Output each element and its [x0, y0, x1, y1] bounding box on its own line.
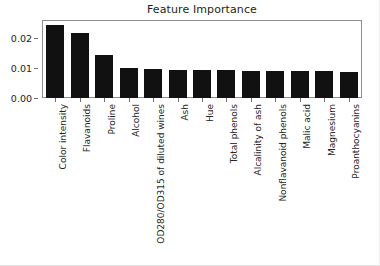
- x-tick-label: Total phenols: [230, 104, 239, 163]
- bar: [193, 70, 211, 98]
- bar: [217, 70, 235, 98]
- x-tick-mark: [251, 98, 252, 102]
- x-tick-label: OD280/OD315 of diluted wines: [157, 104, 166, 244]
- x-tick-mark: [300, 98, 301, 102]
- chart-title: Feature Importance: [42, 3, 362, 16]
- x-tick-mark: [202, 98, 203, 102]
- x-tick-mark: [104, 98, 105, 102]
- x-tick-label: Malic acid: [303, 104, 312, 149]
- x-tick-label: Nonflavanoid phenols: [279, 104, 288, 202]
- y-axis: 0.000.010.02: [0, 20, 38, 98]
- y-tick-label: 0.01: [11, 63, 32, 74]
- x-tick-mark: [324, 98, 325, 102]
- bar: [120, 68, 138, 98]
- x-tick-label: Magnesium: [328, 104, 337, 156]
- x-axis-ticks: [43, 98, 361, 102]
- x-tick-mark: [80, 98, 81, 102]
- bar: [46, 25, 64, 98]
- x-tick-mark: [129, 98, 130, 102]
- x-tick-label: Hue: [206, 104, 215, 122]
- bar: [95, 55, 113, 98]
- bar: [340, 72, 358, 98]
- y-tick-label: 0.02: [11, 33, 32, 44]
- x-tick-label: Alcalinity of ash: [254, 104, 263, 176]
- x-tick-label: Proline: [108, 104, 117, 135]
- x-tick-mark: [153, 98, 154, 102]
- x-tick-label: Flavanoids: [83, 104, 92, 152]
- x-tick-mark: [178, 98, 179, 102]
- x-tick-label: Alcohol: [132, 104, 141, 137]
- bar: [169, 70, 187, 98]
- y-tick-mark: [34, 98, 38, 99]
- y-tick-mark: [34, 38, 38, 39]
- x-tick-mark: [275, 98, 276, 102]
- x-tick-label: Color intensity: [59, 104, 68, 169]
- bar: [71, 33, 89, 98]
- bar-series: [43, 21, 361, 98]
- bar: [315, 71, 333, 98]
- y-tick-mark: [34, 68, 38, 69]
- x-axis-labels: Color intensityFlavanoidsProlineAlcoholO…: [43, 104, 361, 254]
- bar: [291, 71, 309, 98]
- y-tick-label: 0.00: [11, 93, 32, 104]
- figure-canvas: Feature Importance 0.000.010.02 Color in…: [0, 0, 380, 266]
- bar: [242, 71, 260, 98]
- x-tick-label: Proanthocyanins: [352, 104, 361, 179]
- bar: [144, 69, 162, 98]
- x-tick-mark: [349, 98, 350, 102]
- bar: [266, 71, 284, 98]
- x-tick-mark: [226, 98, 227, 102]
- x-tick-mark: [55, 98, 56, 102]
- x-tick-label: Ash: [181, 104, 190, 121]
